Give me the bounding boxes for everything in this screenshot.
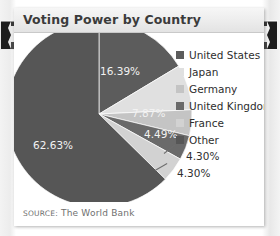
pie-slice-value-label: 7.87% — [132, 107, 165, 119]
legend-swatch-icon — [176, 136, 184, 144]
legend-item[interactable]: United States — [176, 47, 264, 63]
pie-slice-value-label: 4.30% — [186, 150, 219, 162]
pie-slice-value-label: 16.39% — [100, 65, 140, 77]
chart-title-bar: Voting Power by Country — [14, 8, 264, 33]
legend-swatch-icon — [176, 102, 184, 110]
legend-item-label: United Kingdom — [189, 101, 264, 112]
source-note: SOURCE: The World Bank — [23, 208, 135, 218]
pie-slice-value-label: 4.49% — [144, 128, 177, 140]
legend-swatch-icon — [176, 119, 184, 127]
legend-item[interactable]: Germany — [176, 81, 264, 97]
legend-item[interactable]: United Kingdom — [176, 98, 264, 114]
source-value: The World Bank — [61, 208, 135, 218]
chart-footer: SOURCE: The World Bank — [14, 202, 264, 226]
page-tear-right-icon — [262, 20, 278, 50]
legend-item-label: Germany — [189, 84, 237, 95]
legend-item-label: France — [189, 118, 224, 129]
pie-slice-value-label: 4.30% — [177, 167, 210, 179]
legend-item-label: Japan — [189, 67, 218, 78]
pie-slice-value-label: 62.63% — [33, 139, 73, 151]
legend-swatch-icon — [176, 51, 184, 59]
chart-body: 16.39%7.87%4.49%4.30%4.30%62.63% United … — [14, 33, 264, 203]
chart-card: Voting Power by Country 16.39%7.87%4.49%… — [14, 8, 264, 226]
legend-item[interactable]: Japan — [176, 64, 264, 80]
chart-title: Voting Power by Country — [23, 12, 201, 27]
legend-swatch-icon — [176, 68, 184, 76]
pie-chart — [14, 33, 194, 203]
legend-item-label: Other — [189, 135, 219, 146]
chart-legend: United StatesJapanGermanyUnited KingdomF… — [176, 47, 264, 149]
pie-chart-svg — [14, 33, 194, 203]
figure-root: Voting Power by Country 16.39%7.87%4.49%… — [0, 0, 280, 236]
legend-swatch-icon — [176, 85, 184, 93]
legend-item[interactable]: Other — [176, 132, 264, 148]
legend-item-label: United States — [189, 50, 260, 61]
legend-item[interactable]: France — [176, 115, 264, 131]
source-label: SOURCE: — [23, 209, 58, 218]
